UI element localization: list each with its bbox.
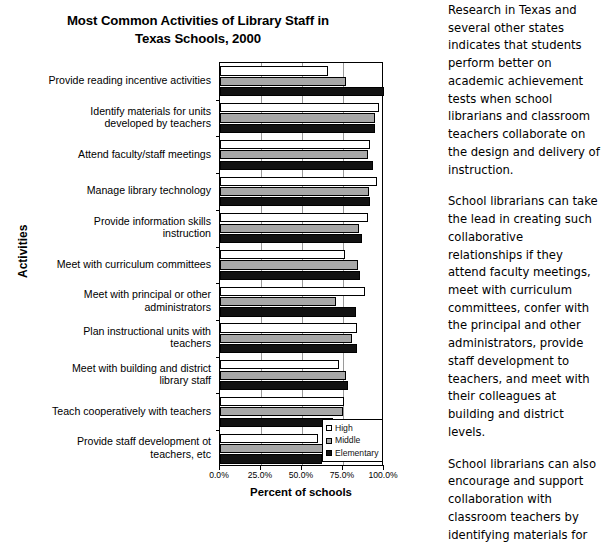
bar-elementary — [220, 454, 322, 463]
y-axis-tick-label: Provide staff development otteachers, et… — [24, 429, 214, 466]
x-axis-tick-label: 0.0% — [209, 470, 229, 480]
legend-item-middle: Middle — [326, 434, 378, 446]
y-axis-tick-label: Identify materials for unitsdeveloped by… — [24, 99, 214, 136]
legend-label: Elementary — [335, 447, 378, 459]
bar-high — [220, 103, 379, 112]
y-axis-tick-label: Meet with curriculum committees — [24, 246, 214, 283]
y-axis-tick-label: Provide reading incentive activities — [24, 62, 214, 99]
bar-middle — [220, 444, 323, 453]
bar-elementary — [220, 124, 375, 133]
bar-group — [220, 283, 382, 320]
y-axis-tick-labels: Provide reading incentive activitiesIden… — [24, 62, 214, 466]
y-axis-tick-label: Plan instructional units withteachers — [24, 319, 214, 356]
y-axis-tick-label: Manage library technology — [24, 172, 214, 209]
bar-group — [220, 247, 382, 284]
bar-elementary — [220, 234, 362, 243]
bar-high — [220, 360, 339, 369]
bar-elementary — [220, 344, 357, 353]
x-axis-tick-label: 75.0% — [330, 470, 354, 480]
bar-middle — [220, 187, 369, 196]
x-axis-tick-label: 50.0% — [289, 470, 313, 480]
bar-group — [220, 63, 382, 100]
y-axis-tick-label: Meet with principal or otheradministrato… — [24, 282, 214, 319]
y-axis-tick-label: Meet with building and districtlibrary s… — [24, 356, 214, 393]
bar-elementary — [220, 271, 360, 280]
bar-high — [220, 323, 357, 332]
y-axis-title: Activities — [2, 200, 16, 218]
x-axis-tick-label: 25.0% — [248, 470, 272, 480]
article-paragraph: School librarians can also encourage and… — [448, 456, 600, 545]
bar-middle — [220, 150, 368, 159]
bar-middle — [220, 407, 343, 416]
bar-middle — [220, 371, 346, 380]
y-axis-tick-label: Attend faculty/staff meetings — [24, 135, 214, 172]
bar-groups — [220, 63, 382, 465]
bar-group — [220, 357, 382, 394]
bar-elementary — [220, 418, 333, 427]
plot-area — [219, 62, 383, 466]
bar-elementary — [220, 307, 356, 316]
y-axis-tick-label: Provide information skillsinstruction — [24, 209, 214, 246]
x-axis-tick-label: 100.0% — [368, 470, 397, 480]
legend-swatch-high-icon — [326, 425, 332, 431]
article-paragraph: Research in Texas and several other stat… — [448, 2, 600, 179]
chart-title: Most Common Activities of Library Staff … — [18, 12, 378, 48]
bar-high — [220, 140, 370, 149]
legend-swatch-middle-icon — [326, 438, 332, 444]
legend-swatch-elementary-icon — [326, 450, 332, 456]
bar-elementary — [220, 381, 348, 390]
bar-high — [220, 213, 368, 222]
bar-group — [220, 320, 382, 357]
bar-middle — [220, 77, 346, 86]
bar-group — [220, 136, 382, 173]
bar-elementary — [220, 161, 373, 170]
bar-middle — [220, 334, 352, 343]
bar-high — [220, 177, 377, 186]
chart-title-line-1: Most Common Activities of Library Staff … — [18, 12, 378, 30]
chart-title-line-2: Texas Schools, 2000 — [18, 30, 378, 48]
bar-elementary — [220, 87, 384, 96]
chart-panel: Most Common Activities of Library Staff … — [0, 0, 396, 527]
legend-label: Middle — [335, 434, 360, 446]
legend-item-elementary: Elementary — [326, 447, 378, 459]
bar-high — [220, 250, 345, 259]
bar-high — [220, 434, 318, 443]
bar-high — [220, 397, 344, 406]
chart-legend: HighMiddleElementary — [322, 419, 383, 462]
legend-item-high: High — [326, 422, 378, 434]
article-paragraph: School librarians can take the lead in c… — [448, 193, 600, 441]
bar-elementary — [220, 197, 370, 206]
bar-group — [220, 100, 382, 137]
bar-group — [220, 173, 382, 210]
bar-high — [220, 287, 365, 296]
legend-label: High — [335, 422, 353, 434]
bar-group — [220, 210, 382, 247]
bar-middle — [220, 297, 336, 306]
bar-high — [220, 66, 328, 75]
y-axis-tick-label: Teach cooperatively with teachers — [24, 392, 214, 429]
article-text-column: Research in Texas and several other stat… — [448, 2, 600, 546]
x-axis-title: Percent of schools — [219, 486, 383, 498]
x-axis-tick-labels: 0.0%25.0%50.0%75.0%100.0% — [219, 470, 383, 484]
bar-middle — [220, 224, 359, 233]
bar-middle — [220, 113, 375, 122]
bar-middle — [220, 260, 358, 269]
